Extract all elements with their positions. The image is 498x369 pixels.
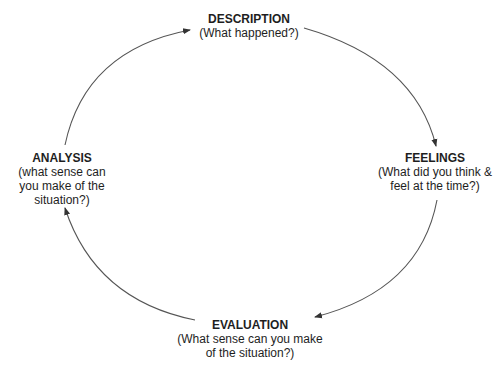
node-title: EVALUATION [170, 318, 330, 332]
arrow-analysis-to-description [65, 30, 190, 145]
node-subtitle: (What sense can you make [170, 332, 330, 346]
node-subtitle: you make of the [0, 179, 124, 193]
node-subtitle: situation?) [0, 193, 124, 207]
node-subtitle: (What happened?) [174, 26, 324, 40]
node-feelings: FEELINGS (What did you think & feel at t… [372, 151, 498, 193]
arrow-feelings-to-evaluation [315, 200, 437, 317]
node-title: DESCRIPTION [174, 12, 324, 26]
arrow-evaluation-to-analysis [65, 208, 195, 320]
node-subtitle: of the situation?) [170, 346, 330, 360]
node-analysis: ANALYSIS (what sense can you make of the… [0, 151, 124, 207]
node-title: ANALYSIS [0, 151, 124, 165]
node-evaluation: EVALUATION (What sense can you make of t… [170, 318, 330, 360]
arrow-description-to-feelings [304, 28, 436, 146]
node-title: FEELINGS [372, 151, 498, 165]
reflective-cycle-diagram: DESCRIPTION (What happened?) FEELINGS (W… [0, 0, 498, 369]
node-subtitle: (what sense can [0, 165, 124, 179]
node-description: DESCRIPTION (What happened?) [174, 12, 324, 40]
node-subtitle: (What did you think & [372, 165, 498, 179]
node-subtitle: feel at the time?) [372, 179, 498, 193]
